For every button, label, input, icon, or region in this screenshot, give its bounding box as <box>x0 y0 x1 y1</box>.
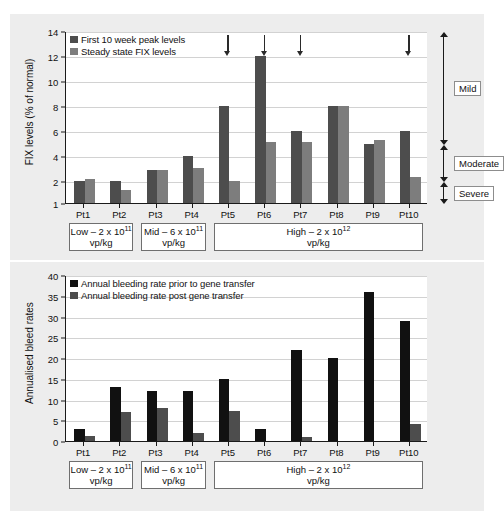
y-tick-mark <box>61 157 65 158</box>
fix-levels-y-axis-label: FIX levels (% of normal) <box>24 26 35 198</box>
down-arrow-pt6 <box>260 35 269 57</box>
down-arrow-pt7 <box>296 35 305 57</box>
x-tick-mark <box>373 442 374 446</box>
bar-pt5-s1 <box>229 181 240 203</box>
legend-swatch-0 <box>70 36 78 43</box>
y-tick-mark <box>61 317 65 318</box>
x-tick-mark <box>264 442 265 446</box>
x-tick-mark <box>156 204 157 208</box>
dose-group-mid: Mid – 6 x 1011vp/kg <box>141 223 205 251</box>
x-label-pt4: Pt4 <box>174 209 210 220</box>
x-tick-mark <box>192 204 193 208</box>
y-tick-mark <box>61 276 65 277</box>
dose-group-mid-dose: Mid – 6 x 1011 <box>144 464 203 475</box>
bar-pt7-s0 <box>291 131 302 203</box>
y-tick-mark <box>61 359 65 360</box>
bar-pt4-s1 <box>193 168 204 203</box>
y-tick-label: 14 <box>48 27 58 38</box>
x-tick-mark <box>228 204 229 208</box>
x-label-pt2: Pt2 <box>101 447 137 458</box>
dose-group-mid-unit: vp/kg <box>162 237 185 248</box>
gridline <box>66 276 427 277</box>
dose-group-high-dose: High – 2 x 1012 <box>287 226 351 237</box>
dose-group-high: High – 2 x 1012vp/kg <box>214 223 423 251</box>
dose-group-mid: Mid – 6 x 1011vp/kg <box>141 461 205 489</box>
x-tick-mark <box>300 204 301 208</box>
gridline <box>66 132 427 133</box>
y-tick-mark <box>61 204 65 205</box>
arrow-head <box>224 51 230 56</box>
x-tick-mark <box>409 442 410 446</box>
x-tick-mark <box>264 204 265 208</box>
bracket-arrow-up <box>440 32 448 37</box>
dose-group-low: Low – 2 x 1011vp/kg <box>69 223 133 251</box>
y-tick-label: 20 <box>48 354 58 365</box>
down-arrow-pt5 <box>223 35 232 57</box>
x-tick-mark <box>156 442 157 446</box>
x-tick-mark <box>192 442 193 446</box>
bar-pt3-s0 <box>147 170 158 203</box>
legend-label-1: Annual bleeding rate post gene transfer <box>81 290 243 301</box>
x-label-pt7: Pt7 <box>282 209 318 220</box>
bracket-arrow-down <box>440 199 448 204</box>
severity-label-mild: Mild <box>454 81 481 96</box>
bar-pt7-s1 <box>302 437 313 441</box>
bar-pt4-s0 <box>183 156 194 203</box>
x-label-pt8: Pt8 <box>318 447 354 458</box>
dose-group-low-unit: vp/kg <box>90 237 113 248</box>
y-tick-label: 30 <box>48 312 58 323</box>
bar-pt10-s1 <box>410 424 421 441</box>
fix-levels-legend: First 10 week peak levelsSteady state FI… <box>70 34 185 58</box>
bar-pt6-s1 <box>266 142 277 203</box>
bar-pt7-s1 <box>302 142 313 203</box>
arrow-head <box>297 51 303 56</box>
y-tick-mark <box>61 57 65 58</box>
x-tick-mark <box>300 442 301 446</box>
x-label-pt7: Pt7 <box>282 447 318 458</box>
dose-group-mid-dose: Mid – 6 x 1011 <box>144 226 203 237</box>
bar-pt8-s1 <box>338 106 349 203</box>
bar-pt3-s1 <box>157 408 168 441</box>
x-tick-mark <box>337 204 338 208</box>
bracket-shaft <box>443 150 444 178</box>
dose-group-high-dose: High – 2 x 1012 <box>287 464 351 475</box>
y-tick-mark <box>61 132 65 133</box>
severity-bracket-severe <box>439 182 448 204</box>
arrow-shaft <box>264 35 265 52</box>
arrow-shaft <box>300 35 301 52</box>
dose-group-high-unit: vp/kg <box>307 475 330 486</box>
down-arrow-pt10 <box>404 35 413 57</box>
bar-pt4-s0 <box>183 391 194 441</box>
bar-pt3-s1 <box>157 170 168 203</box>
y-tick-mark <box>61 379 65 380</box>
bar-pt5-s1 <box>229 411 240 441</box>
bracket-arrow-up <box>440 145 448 150</box>
y-tick-mark <box>61 182 65 183</box>
y-tick-label: 2 <box>53 177 58 188</box>
x-label-pt10: Pt10 <box>391 209 427 220</box>
bleed-rates-panel: Annualised bleed rates Annual bleeding r… <box>10 262 484 511</box>
legend-swatch-0 <box>70 280 78 287</box>
bar-pt4-s1 <box>193 433 204 441</box>
x-tick-mark <box>119 442 120 446</box>
dose-group-low-unit: vp/kg <box>90 475 113 486</box>
y-tick-label: 1 <box>53 199 58 210</box>
severity-bracket-moderate <box>439 145 448 183</box>
legend-label-0: Annual bleeding rate prior to gene trans… <box>81 278 255 289</box>
y-tick-mark <box>61 442 65 443</box>
y-tick-mark <box>61 338 65 339</box>
y-tick-label: 0 <box>53 437 58 448</box>
legend-item-1: Annual bleeding rate post gene transfer <box>70 290 255 301</box>
y-tick-label: 4 <box>53 152 58 163</box>
bar-pt7-s0 <box>291 350 302 441</box>
arrow-head <box>261 51 267 56</box>
bracket-shaft <box>443 37 444 140</box>
bar-pt6-s0 <box>255 429 266 441</box>
x-tick-mark <box>373 204 374 208</box>
x-tick-mark <box>228 442 229 446</box>
dose-group-high-unit: vp/kg <box>307 237 330 248</box>
dose-group-high: High – 2 x 1012vp/kg <box>214 461 423 489</box>
x-label-pt6: Pt6 <box>246 447 282 458</box>
legend-swatch-1 <box>70 292 78 299</box>
bar-pt1-s1 <box>85 179 96 203</box>
